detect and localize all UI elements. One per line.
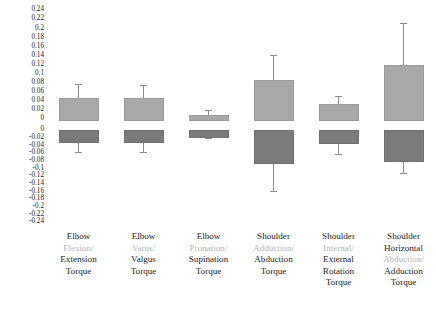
x-axis-label-line: Elbow: [176, 231, 241, 243]
x-axis-label: ShoulderHorizontalAbduction/AdductionTor…: [371, 231, 436, 289]
y-tick-label: 0.12: [31, 61, 44, 68]
error-bar-cap-positive: [205, 110, 212, 111]
bar-group: [306, 0, 371, 230]
x-axis-label-line: Torque: [241, 266, 306, 278]
x-axis-label-line: Torque: [111, 266, 176, 278]
error-bar-positive: [403, 23, 404, 66]
error-bar-cap-positive: [400, 23, 407, 24]
bar-positive: [384, 65, 424, 121]
y-tick-label: 0.16: [31, 43, 44, 50]
bar-negative: [59, 130, 99, 143]
x-axis-label-line: Shoulder: [371, 231, 436, 243]
x-axis-label-line: Valgus: [111, 254, 176, 266]
bar-negative: [384, 130, 424, 162]
error-bar-cap-positive: [335, 96, 342, 97]
bar-negative: [254, 130, 294, 164]
error-bar-cap-negative: [270, 191, 277, 192]
error-bar-positive: [338, 96, 339, 104]
y-tick-label: 0.22: [31, 15, 44, 22]
x-axis-label-line: Rotation: [306, 266, 371, 278]
y-tick-label: 0.08: [31, 79, 44, 86]
y-tick-label: 0.06: [31, 88, 44, 95]
y-axis: 0.240.220.20.180.160.140.120.10.080.060.…: [0, 0, 46, 230]
y-tick-label: 0.04: [31, 97, 44, 104]
x-axis-label-line: Supination: [176, 254, 241, 266]
x-axis-label: ElbowPronation/SupinationTorque: [176, 231, 241, 277]
error-bar-positive: [273, 55, 274, 80]
error-bar-cap-negative: [75, 152, 82, 153]
x-axis-label-line: Elbow: [111, 231, 176, 243]
y-tick-label: 0.2: [35, 25, 44, 32]
x-axis-label-line: Adduction/: [241, 243, 306, 255]
y-tick-label: 0: [40, 115, 44, 122]
x-axis-label-line: Torque: [46, 266, 111, 278]
error-bar-cap-positive: [75, 84, 82, 85]
x-axis-label-line: Torque: [306, 277, 371, 289]
x-axis-label-line: Varus/: [111, 243, 176, 255]
y-tick-label: -0.24: [29, 218, 44, 225]
error-bar-cap-negative: [400, 173, 407, 174]
error-bar-positive: [78, 84, 79, 99]
x-axis-label-line: Pronation/: [176, 243, 241, 255]
x-axis-labels: ElbowFlexion/ExtensionTorqueElbowVarus/V…: [46, 231, 436, 311]
error-bar-cap-positive: [270, 55, 277, 56]
y-tick-label: 0.24: [31, 6, 44, 13]
x-axis-label-line: Shoulder: [241, 231, 306, 243]
error-bar-cap-negative: [140, 152, 147, 153]
error-bar-cap-negative: [205, 138, 212, 139]
bar-negative: [189, 130, 229, 138]
x-axis-label-line: Elbow: [46, 231, 111, 243]
plot-area: [46, 0, 436, 230]
x-axis-label-line: Abduction: [241, 254, 306, 266]
y-tick-label: 0.14: [31, 52, 44, 59]
x-axis-label-line: Adduction: [371, 266, 436, 278]
x-axis-label: ShoulderInternal/ExternalRotationTorque: [306, 231, 371, 289]
x-axis-label-line: Shoulder: [306, 231, 371, 243]
bar-group: [241, 0, 306, 230]
bar-positive: [319, 104, 359, 121]
bar-positive: [59, 98, 99, 121]
error-bar-cap-negative: [335, 154, 342, 155]
y-tick-label: 0.1: [35, 70, 44, 77]
x-axis-label-line: Torque: [176, 266, 241, 278]
bar-negative: [319, 130, 359, 144]
bar-group: [176, 0, 241, 230]
error-bar-positive: [143, 85, 144, 98]
torque-bar-chart: 0.240.220.20.180.160.140.120.10.080.060.…: [0, 0, 436, 311]
x-axis-label-line: Torque: [371, 277, 436, 289]
x-axis-label-line: Extension: [46, 254, 111, 266]
x-axis-label: ElbowFlexion/ExtensionTorque: [46, 231, 111, 277]
x-axis-label-line: Internal/: [306, 243, 371, 255]
x-axis-label-line: External: [306, 254, 371, 266]
bar-group: [371, 0, 436, 230]
y-tick-label: 0.02: [31, 106, 44, 113]
bar-group: [46, 0, 111, 230]
x-axis-label: ShoulderAdduction/AbductionTorque: [241, 231, 306, 277]
error-bar-negative: [273, 162, 274, 192]
x-axis-label-line: Abduction/: [371, 254, 436, 266]
error-bar-cap-positive: [140, 85, 147, 86]
bar-positive: [124, 98, 164, 121]
bar-negative: [124, 130, 164, 143]
x-axis-label: ElbowVarus/ValgusTorque: [111, 231, 176, 277]
x-axis-label-line: Flexion/: [46, 243, 111, 255]
bar-group: [111, 0, 176, 230]
y-tick-label: 0.18: [31, 34, 44, 41]
bar-positive: [189, 115, 229, 121]
x-axis-label-line: Horizontal: [371, 243, 436, 255]
bar-positive: [254, 80, 294, 121]
